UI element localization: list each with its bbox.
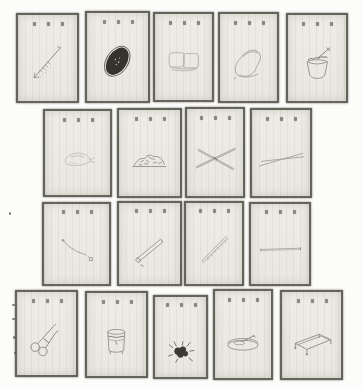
title-glyph-mark xyxy=(163,117,166,121)
card-illustration xyxy=(120,222,179,272)
title-glyph-mark xyxy=(316,22,319,26)
card-r2c4[interactable] xyxy=(250,108,312,198)
card-illustration xyxy=(253,131,309,184)
title-glyph-mark xyxy=(311,299,314,303)
title-glyph-mark xyxy=(199,209,202,213)
card-r1c4[interactable] xyxy=(218,12,279,103)
dark-oval-illustration xyxy=(88,34,147,89)
title-glyph-mark xyxy=(242,298,245,302)
card-r3c2[interactable] xyxy=(117,201,182,286)
title-glyph-mark xyxy=(62,210,65,214)
card-r1c1[interactable] xyxy=(16,13,79,103)
card-title-marks xyxy=(49,210,105,216)
title-glyph-mark xyxy=(47,22,50,26)
title-glyph-mark xyxy=(194,303,197,307)
title-glyph-mark xyxy=(77,118,80,122)
title-glyph-mark xyxy=(135,117,138,121)
card-r4c5[interactable] xyxy=(280,290,343,380)
card-illustration xyxy=(216,312,270,366)
title-glyph-mark xyxy=(227,209,230,213)
title-glyph-mark xyxy=(33,22,36,26)
title-glyph-mark xyxy=(297,299,300,303)
title-glyph-mark xyxy=(228,298,231,302)
title-glyph-mark xyxy=(149,209,152,213)
card-illustration xyxy=(188,130,242,184)
card-title-marks xyxy=(22,299,73,305)
title-glyph-mark xyxy=(279,210,282,214)
card-illustration xyxy=(252,223,308,273)
card-illustration xyxy=(45,223,107,273)
card-r4c2[interactable] xyxy=(85,291,148,378)
dark-cluster-illustration xyxy=(156,324,205,374)
title-glyph-mark xyxy=(117,20,120,24)
title-glyph-mark xyxy=(76,210,79,214)
scan-speckle xyxy=(9,212,11,215)
title-glyph-mark xyxy=(32,299,35,303)
chopsticks-illustration xyxy=(253,131,309,184)
title-glyph-mark xyxy=(60,299,63,303)
card-title-marks xyxy=(219,298,267,304)
low-table-illustration xyxy=(283,313,340,366)
card-r3c1[interactable] xyxy=(42,202,111,286)
title-glyph-mark xyxy=(228,116,231,120)
card-r2c2[interactable] xyxy=(117,108,182,198)
title-glyph-mark xyxy=(248,21,251,25)
scan-speckle xyxy=(13,336,15,339)
card-title-marks xyxy=(92,300,143,306)
title-glyph-mark xyxy=(131,20,134,24)
card-r1c2[interactable] xyxy=(85,11,150,103)
title-glyph-mark xyxy=(213,209,216,213)
hatched-stick-illustration xyxy=(187,222,241,272)
tray-object-illustration xyxy=(216,312,270,366)
card-r2c1[interactable] xyxy=(43,109,112,197)
card-title-marks xyxy=(92,20,144,26)
title-glyph-mark xyxy=(265,210,268,214)
title-glyph-mark xyxy=(46,299,49,303)
title-glyph-mark xyxy=(294,117,297,121)
title-glyph-mark xyxy=(302,22,305,26)
title-glyph-mark xyxy=(330,22,333,26)
title-glyph-mark xyxy=(135,209,138,213)
title-glyph-mark xyxy=(200,116,203,120)
title-glyph-mark xyxy=(102,300,105,304)
card-r4c1[interactable] xyxy=(15,290,78,377)
title-glyph-mark xyxy=(197,21,200,25)
folded-box-illustration xyxy=(156,35,211,88)
card-illustration xyxy=(156,35,211,88)
title-glyph-mark xyxy=(61,22,64,26)
title-glyph-mark xyxy=(63,118,66,122)
card-title-marks xyxy=(293,22,343,28)
title-glyph-mark xyxy=(91,118,94,122)
title-glyph-mark xyxy=(280,117,283,121)
card-illustration xyxy=(289,36,345,89)
title-glyph-mark xyxy=(163,209,166,213)
card-r3c4[interactable] xyxy=(249,202,311,286)
card-title-marks xyxy=(23,22,74,28)
card-illustration xyxy=(46,131,108,183)
scan-speckle xyxy=(12,318,15,320)
card-title-marks xyxy=(50,118,106,124)
card-r1c5[interactable] xyxy=(286,13,348,103)
title-glyph-mark xyxy=(169,21,172,25)
card-title-marks xyxy=(257,117,307,123)
card-r2c3[interactable] xyxy=(185,107,245,198)
scan-speckle xyxy=(12,304,15,306)
card-r1c3[interactable] xyxy=(153,12,214,102)
title-glyph-mark xyxy=(183,21,186,25)
card-r3c3[interactable] xyxy=(184,201,244,286)
title-glyph-mark xyxy=(130,300,133,304)
scissors-illustration xyxy=(18,312,75,363)
title-glyph-mark xyxy=(262,21,265,25)
card-illustration xyxy=(156,324,205,374)
mound-illustration xyxy=(120,131,179,184)
title-glyph-mark xyxy=(325,299,328,303)
scan-speckle xyxy=(14,352,16,354)
card-title-marks xyxy=(256,210,306,216)
title-glyph-mark xyxy=(103,20,106,24)
title-glyph-mark xyxy=(166,303,169,307)
card-title-marks xyxy=(124,209,176,215)
card-r4c4[interactable] xyxy=(213,289,273,380)
card-r4c3[interactable] xyxy=(153,295,208,379)
flat-rod-illustration xyxy=(252,223,308,273)
bell-pouch-illustration xyxy=(221,35,276,89)
